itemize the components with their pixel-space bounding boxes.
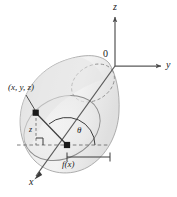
z-axis-label: z (113, 2, 117, 12)
center-point-marker (64, 142, 70, 148)
radius-function-label: f(x) (62, 160, 75, 169)
theta-angle-label: θ (77, 126, 81, 135)
origin-label: 0 (103, 49, 108, 59)
x-axis-label: x (29, 177, 33, 187)
math-figure-container: z y x 0 (x, y, z) z θ f(x) (0, 0, 177, 197)
height-label: z (29, 126, 32, 134)
y-axis-label: y (166, 60, 170, 70)
solid-of-revolution-diagram (0, 0, 177, 197)
surface-point-label: (x, y, z) (8, 83, 34, 92)
surface-point-marker (33, 110, 39, 116)
